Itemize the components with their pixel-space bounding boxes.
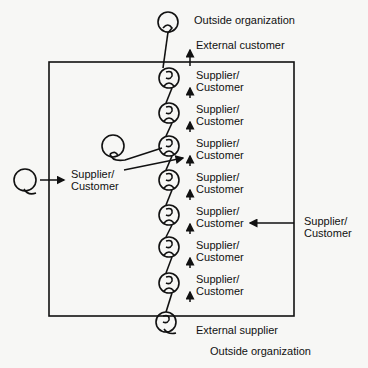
chain-nodes bbox=[159, 68, 179, 293]
bottom-external-label: External supplier bbox=[196, 324, 278, 336]
right-external-label-b: Customer bbox=[304, 227, 352, 239]
chain-label-3a: Supplier/ bbox=[196, 137, 240, 149]
chain-label-3b: Customer bbox=[196, 149, 244, 161]
chain-label-5b: Customer bbox=[196, 217, 244, 229]
chain-node-icon bbox=[159, 136, 179, 156]
chain-label-5a: Supplier/ bbox=[196, 205, 240, 217]
right-external-label-a: Supplier/ bbox=[304, 215, 348, 227]
chain-label-4a: Supplier/ bbox=[196, 171, 240, 183]
chain-node-icon bbox=[159, 237, 179, 257]
outside-supplier-q-icon bbox=[156, 312, 176, 334]
chain-label-1b: Customer bbox=[196, 81, 244, 93]
top-external-label: External customer bbox=[196, 39, 285, 51]
left-external-label-a: Supplier/ bbox=[71, 168, 115, 180]
chain-node-icon bbox=[159, 273, 179, 293]
chain-label-4b: Customer bbox=[196, 183, 244, 195]
chain-label-2b: Customer bbox=[196, 115, 244, 127]
side-loop-q-icon bbox=[102, 135, 162, 160]
chain-node-icon bbox=[159, 205, 179, 225]
supplier-customer-chain-diagram: Outside organization External customer S… bbox=[0, 0, 368, 368]
chain-label-6b: Customer bbox=[196, 251, 244, 263]
top-outside-label: Outside organization bbox=[194, 14, 295, 26]
chain-node-icon bbox=[159, 103, 179, 123]
chain-label-7a: Supplier/ bbox=[196, 273, 240, 285]
chain-node-icon bbox=[159, 170, 179, 190]
chain-label-6a: Supplier/ bbox=[196, 239, 240, 251]
chain-label-7b: Customer bbox=[196, 285, 244, 297]
chain-node-icon bbox=[159, 68, 179, 88]
chain-label-2a: Supplier/ bbox=[196, 103, 240, 115]
left-external-label-b: Customer bbox=[71, 180, 119, 192]
bottom-outside-label: Outside organization bbox=[210, 345, 311, 357]
left-external-q-icon bbox=[14, 169, 36, 194]
side-input-arrow bbox=[124, 158, 183, 170]
outside-customer-q-icon bbox=[158, 12, 178, 33]
chain-label-1a: Supplier/ bbox=[196, 69, 240, 81]
